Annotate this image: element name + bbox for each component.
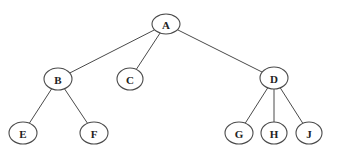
tree-node-b: B	[44, 68, 72, 90]
node-label: D	[270, 73, 278, 85]
tree-node-e: E	[9, 122, 37, 144]
tree-node-j: J	[296, 122, 322, 144]
tree-node-d: D	[260, 67, 288, 89]
node-label: F	[91, 128, 98, 140]
node-label: C	[126, 74, 134, 86]
edge-a-c	[136, 33, 160, 69]
node-label: B	[54, 74, 62, 86]
tree-node-c: C	[117, 68, 143, 90]
tree-diagram: ABCDEFGHJ	[0, 0, 340, 153]
edge-a-b	[70, 30, 155, 73]
tree-node-a: A	[152, 14, 180, 34]
edge-d-g	[245, 88, 267, 123]
nodes-layer: ABCDEFGHJ	[9, 14, 322, 144]
tree-node-f: F	[80, 122, 108, 144]
tree-node-g: G	[225, 122, 253, 144]
node-label: E	[19, 128, 26, 140]
edge-b-f	[64, 89, 87, 124]
tree-node-h: H	[261, 122, 287, 144]
node-label: H	[270, 128, 279, 140]
edge-b-e	[29, 89, 51, 123]
node-label: A	[162, 19, 170, 31]
edge-a-d	[177, 30, 262, 72]
edge-d-j	[280, 88, 303, 123]
node-label: J	[306, 128, 312, 140]
node-label: G	[235, 128, 244, 140]
